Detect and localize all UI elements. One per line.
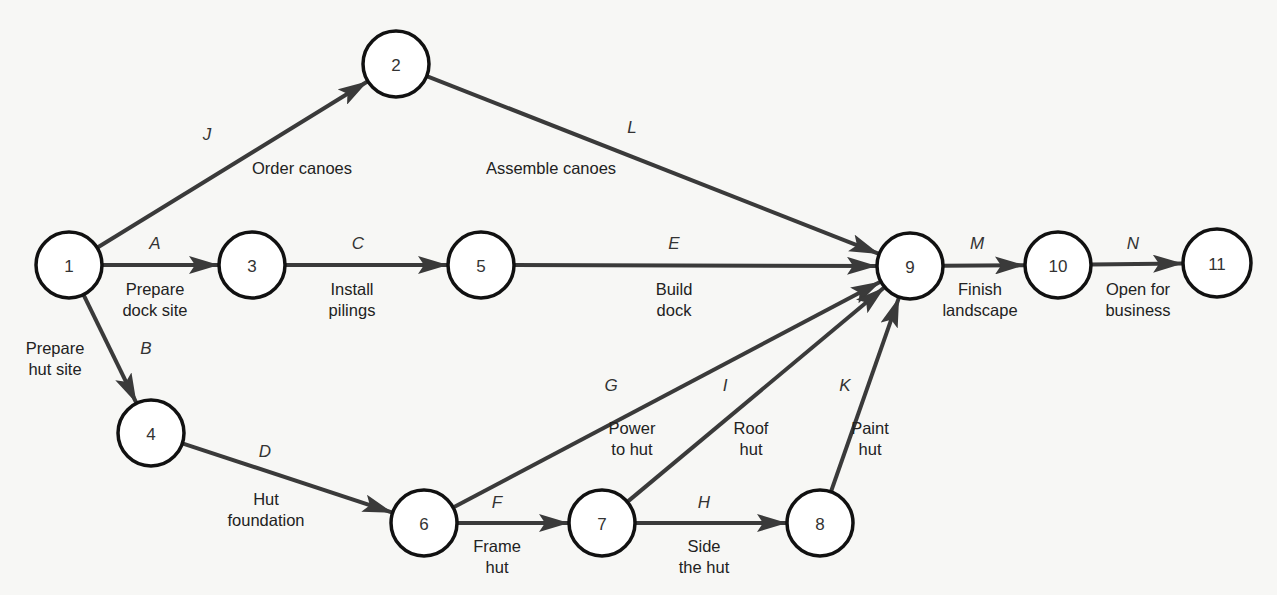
event-node-5: 5 — [448, 232, 514, 298]
node-number: 3 — [247, 257, 256, 276]
activity-description-e: Builddock — [656, 280, 693, 319]
description-line: dock — [657, 301, 693, 319]
description-line: Frame — [473, 537, 521, 555]
activity-description-j: Order canoes — [252, 159, 352, 177]
description-line: foundation — [227, 511, 304, 529]
activity-arrow-e — [514, 265, 876, 266]
activity-description-h: Sidethe hut — [679, 537, 730, 576]
node-number: 7 — [597, 515, 606, 534]
description-line: Open for — [1106, 280, 1171, 298]
arrow-line-e — [514, 265, 876, 266]
activity-letter-m: M — [970, 234, 985, 253]
node-number: 4 — [146, 425, 155, 444]
description-line: Roof — [734, 419, 769, 437]
activity-letter-n: N — [1127, 234, 1140, 253]
event-node-4: 4 — [118, 400, 184, 466]
description-line: hut — [486, 558, 509, 576]
node-number: 11 — [1208, 255, 1226, 274]
node-number: 9 — [905, 258, 914, 277]
description-line: hut — [740, 440, 763, 458]
node-number: 2 — [391, 56, 400, 75]
activity-network-diagram: 1234567891011 JOrder canoesAPreparedock … — [0, 0, 1277, 595]
activity-description-f: Framehut — [473, 537, 521, 576]
description-line: hut — [859, 440, 882, 458]
description-line: business — [1105, 301, 1170, 319]
activity-description-d: Hutfoundation — [227, 490, 304, 529]
node-number: 5 — [476, 257, 485, 276]
activity-arrow-m — [943, 265, 1024, 266]
node-number: 8 — [815, 515, 824, 534]
node-number: 1 — [64, 257, 73, 276]
description-line: Prepare — [26, 339, 85, 357]
description-line: Paint — [851, 419, 889, 437]
arrow-line-m — [943, 265, 1024, 266]
activity-arrow-d — [182, 443, 391, 512]
activity-letter-a: A — [148, 234, 160, 253]
activity-letter-j: J — [202, 125, 212, 144]
event-node-3: 3 — [219, 232, 285, 298]
description-line: Side — [687, 537, 720, 555]
event-node-11: 11 — [1183, 229, 1251, 297]
node-number: 6 — [419, 515, 428, 534]
activity-description-l: Assemble canoes — [486, 159, 616, 177]
activity-letter-c: C — [352, 234, 365, 253]
event-node-7: 7 — [569, 490, 635, 556]
description-line: Assemble canoes — [486, 159, 616, 177]
network-diagram-canvas: 1234567891011 JOrder canoesAPreparedock … — [0, 0, 1277, 595]
activity-letter-k: K — [839, 376, 851, 395]
description-line: hut site — [28, 360, 81, 378]
activity-letter-b: B — [140, 339, 151, 358]
event-node-1: 1 — [36, 232, 102, 298]
activity-description-n: Open forbusiness — [1105, 280, 1170, 319]
description-line: dock site — [122, 301, 187, 319]
description-line: Install — [330, 280, 373, 298]
arrow-line-d — [182, 443, 391, 512]
event-node-6: 6 — [391, 490, 457, 556]
activity-description-b: Preparehut site — [26, 339, 85, 378]
event-node-10: 10 — [1025, 232, 1091, 298]
activity-arrow-n — [1091, 263, 1182, 264]
activity-description-i: Roofhut — [734, 419, 769, 458]
description-line: Finish — [958, 280, 1002, 298]
activity-description-m: Finishlandscape — [942, 280, 1017, 319]
event-node-2: 2 — [363, 31, 429, 97]
activity-description-k: Painthut — [851, 419, 889, 458]
activity-description-g: Powerto hut — [609, 419, 656, 458]
description-line: Order canoes — [252, 159, 352, 177]
activity-letter-d: D — [259, 442, 271, 461]
activity-letter-f: F — [492, 493, 504, 512]
activity-letter-i: I — [723, 376, 728, 395]
activity-letter-e: E — [668, 234, 680, 253]
arrow-line-n — [1091, 263, 1182, 264]
activity-description-a: Preparedock site — [122, 280, 187, 319]
activity-letter-g: G — [604, 376, 617, 395]
description-line: the hut — [679, 558, 730, 576]
description-line: Power — [609, 419, 656, 437]
description-line: landscape — [942, 301, 1017, 319]
description-line: to hut — [611, 440, 653, 458]
description-line: pilings — [329, 301, 376, 319]
activity-description-c: Installpilings — [329, 280, 376, 319]
event-node-9: 9 — [877, 233, 943, 299]
node-number: 10 — [1049, 257, 1068, 276]
description-line: Prepare — [126, 280, 185, 298]
description-line: Hut — [253, 490, 279, 508]
activity-letter-l: L — [627, 118, 636, 137]
event-node-8: 8 — [787, 490, 853, 556]
nodes-layer: 1234567891011 — [36, 31, 1251, 556]
activity-letter-h: H — [698, 493, 711, 512]
description-line: Build — [656, 280, 693, 298]
